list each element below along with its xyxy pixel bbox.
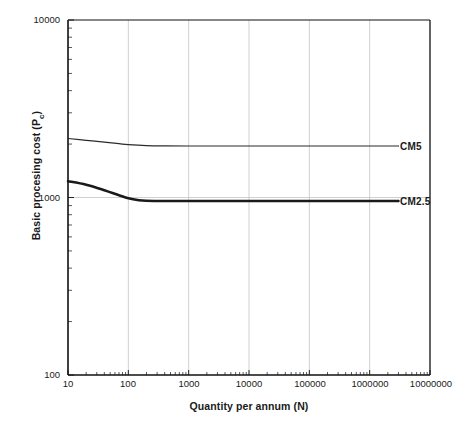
series-label-cm5: CM5: [400, 141, 422, 152]
series-line-cm5: [68, 138, 398, 146]
plot-area: [0, 0, 468, 435]
series-label-cm25: CM2.5: [400, 196, 430, 207]
series-line-cm2-5: [68, 181, 398, 201]
chart-figure: Basic procesing cost (Pc) Quantity per a…: [0, 0, 468, 435]
